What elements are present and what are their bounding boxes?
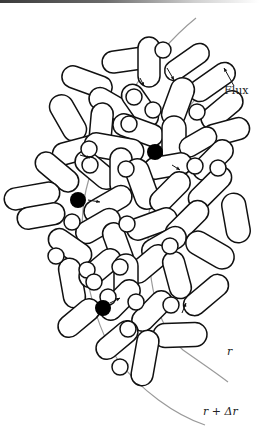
packed-bed-diagram bbox=[0, 0, 259, 434]
sphere-particle bbox=[126, 89, 142, 105]
r-label: r bbox=[227, 345, 232, 358]
sphere-particle bbox=[128, 294, 144, 310]
sphere-particle bbox=[210, 160, 226, 176]
r-plus-delta-r-label: r + Δr bbox=[203, 405, 238, 418]
sphere-particle bbox=[155, 42, 171, 58]
sphere-particle bbox=[163, 297, 179, 313]
solid-particle bbox=[70, 192, 86, 208]
sphere-particle bbox=[145, 102, 161, 118]
sphere-particle bbox=[48, 248, 64, 264]
rod-particle bbox=[220, 191, 252, 244]
sphere-particle bbox=[187, 158, 203, 174]
rod-particle bbox=[153, 322, 208, 348]
flux-label: Flux bbox=[224, 84, 248, 97]
sphere-particle bbox=[162, 238, 178, 254]
sphere-particle bbox=[120, 321, 136, 337]
sphere-particle bbox=[112, 359, 128, 375]
solid-particle bbox=[95, 300, 111, 316]
sphere-particle bbox=[118, 161, 134, 177]
sphere-particle bbox=[119, 216, 135, 232]
sphere-particle bbox=[81, 141, 97, 157]
solid-particle bbox=[147, 144, 163, 160]
sphere-particle bbox=[64, 214, 80, 230]
sphere-particle bbox=[86, 274, 102, 290]
sphere-particle bbox=[189, 104, 205, 120]
sphere-particle bbox=[82, 157, 98, 173]
sphere-particle bbox=[121, 116, 137, 132]
sphere-particle bbox=[112, 259, 128, 275]
